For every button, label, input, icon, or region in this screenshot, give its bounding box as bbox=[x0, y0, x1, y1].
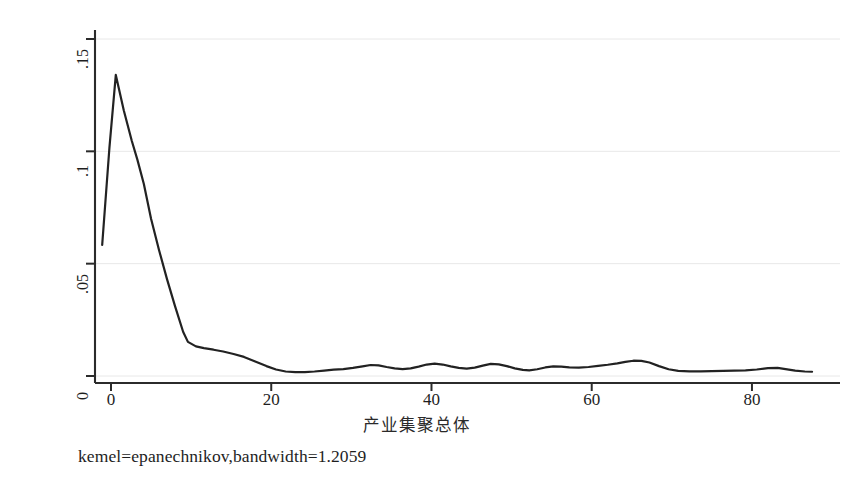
x-tick-label: 60 bbox=[562, 390, 622, 410]
y-tick-label: .1 bbox=[74, 151, 92, 191]
x-tick-label: 80 bbox=[722, 390, 782, 410]
x-axis-title: 产业集聚总体 bbox=[363, 412, 471, 436]
y-tick-label: .15 bbox=[74, 39, 92, 79]
plot-area bbox=[95, 30, 825, 383]
kernel-density-figure: 核密度值 0.05.1.15 020406080 产业集聚总体 kemel=ep… bbox=[0, 0, 860, 492]
x-tick-label: 40 bbox=[401, 390, 461, 410]
x-tick-label: 20 bbox=[241, 390, 301, 410]
x-tick-label: 0 bbox=[81, 390, 141, 410]
y-tick-label: .05 bbox=[74, 264, 92, 304]
chart-caption: kemel=epanechnikov,bandwidth=1.2059 bbox=[78, 446, 366, 467]
